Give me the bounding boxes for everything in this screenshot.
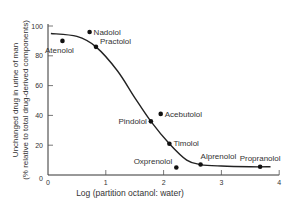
y-tick-label: 0	[39, 175, 43, 182]
x-axis-label: Log (partition octanol: water)	[76, 188, 184, 198]
data-point-practolol: Practolol	[94, 37, 132, 49]
data-point-nadolol: Nadolol	[87, 28, 121, 37]
x-tick-label: 3	[219, 179, 223, 186]
y-axis-label-line1: Unchanged drug in urine of man	[11, 43, 20, 157]
point-label: Atenolol	[45, 46, 74, 55]
x-tick-label: 4	[277, 179, 281, 186]
point-label: Pindolol	[118, 117, 147, 126]
x-tick-label: 2	[162, 179, 166, 186]
data-point-pindolol: Pindolol	[118, 117, 153, 126]
y-tick-label: 20	[35, 142, 43, 149]
chart: 01234020406080100 AtenololNadololPractol…	[0, 0, 301, 206]
point-label: Propranolol	[240, 154, 281, 163]
data-point-acebutolol: Acebutolol	[158, 110, 202, 119]
data-point-oxprenolol: Oxprenolol	[134, 157, 179, 170]
y-tick-label: 40	[35, 112, 43, 119]
point-label: Oxprenolol	[134, 157, 173, 166]
point-label: Practolol	[100, 37, 131, 46]
point-label: Acebutolol	[165, 110, 203, 119]
y-tick-label: 80	[35, 52, 43, 59]
y-tick-label: 60	[35, 82, 43, 89]
fitted-curve	[51, 33, 271, 166]
y-axis-label-line2: (% relative to total drug-derived compon…	[21, 20, 30, 180]
x-tick-label: 1	[104, 179, 108, 186]
x-tick-label: 0	[46, 179, 50, 186]
point-label: Alprenolol	[201, 152, 237, 161]
y-tick-label: 100	[31, 23, 43, 30]
point-label: Timolol	[173, 139, 199, 148]
data-point-atenolol: Atenolol	[45, 39, 74, 55]
data-points: AtenololNadololPractololPindololAcebutol…	[45, 28, 281, 170]
point-label: Nadolol	[94, 28, 121, 37]
